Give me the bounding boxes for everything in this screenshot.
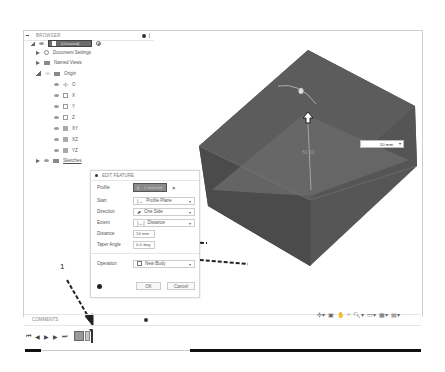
eye-icon[interactable]: [54, 127, 59, 130]
timeline-marker[interactable]: [91, 330, 93, 343]
pan-icon[interactable]: ✋: [337, 311, 344, 318]
folder-icon: [44, 61, 50, 65]
distance-icon: |↔|: [137, 220, 145, 226]
grid-settings-icon[interactable]: ▦▾: [379, 311, 388, 318]
profile-selection[interactable]: ⇧ 1 selected: [133, 183, 167, 192]
tree-root[interactable]: (Unsaved): [30, 39, 101, 48]
eye-icon[interactable]: [39, 42, 44, 45]
tree-item-label: X: [72, 93, 75, 98]
expand-icon[interactable]: [36, 71, 41, 76]
chevron-down-icon: ▾: [189, 262, 191, 267]
play-icon[interactable]: ▶: [44, 333, 49, 340]
timeline-extrude-feature[interactable]: [85, 331, 90, 341]
go-to-end-icon[interactable]: ⏭: [62, 333, 67, 340]
chevron-down-icon: ▾: [189, 210, 191, 215]
start-select[interactable]: |→ Profile Plane ▾: [133, 197, 195, 205]
new-body-icon: [137, 261, 142, 266]
ok-button[interactable]: OK: [136, 282, 161, 290]
tree-item-z-axis[interactable]: Z: [54, 113, 75, 122]
edit-feature-dialog: EDIT FEATURE Profile ⇧ 1 selected × Star…: [90, 170, 200, 298]
viewports-icon[interactable]: ▤▾: [391, 311, 400, 318]
step-forward-icon[interactable]: ▶: [53, 333, 58, 340]
timeline-sketch-feature[interactable]: [74, 331, 84, 341]
axis-icon: [63, 93, 68, 98]
eye-icon[interactable]: [54, 83, 59, 86]
gear-icon: [44, 50, 49, 55]
fit-icon[interactable]: 🔍︎▾: [353, 311, 364, 318]
extent-select[interactable]: |↔| Distance ▾: [133, 219, 195, 227]
taper-angle-input[interactable]: 0.0 deg: [133, 241, 155, 249]
root-component[interactable]: (Unsaved): [48, 40, 92, 47]
tree-item-y-axis[interactable]: Y: [54, 102, 75, 111]
eye-icon[interactable]: [44, 159, 49, 162]
start-label: Start: [91, 198, 133, 203]
timeline: ⏮ ◀ ▶ ▶ ⏭: [24, 325, 421, 346]
orbit-icon[interactable]: ✣▾: [317, 311, 325, 318]
tree-item-label: Y: [72, 104, 75, 109]
tree-item-origin-point[interactable]: ✣ O: [54, 80, 76, 89]
tree-item-origin[interactable]: Origin: [36, 69, 76, 78]
dialog-header[interactable]: EDIT FEATURE: [91, 171, 199, 181]
activate-radio-icon[interactable]: [96, 41, 101, 46]
divider: [91, 253, 199, 254]
tree-item-label: Document Settings: [53, 50, 91, 55]
distance-manipulator-input[interactable]: 10 mm ▾: [360, 140, 404, 148]
tree-item-sketches[interactable]: Sketches: [36, 156, 82, 165]
tree-item-yz-plane[interactable]: YZ: [54, 146, 78, 155]
chevron-down-icon[interactable]: ▾: [399, 141, 401, 146]
direction-select[interactable]: ⬈ One Side ▾: [133, 208, 195, 216]
panel-menu-icon[interactable]: [149, 33, 150, 38]
tree-item-label: YZ: [72, 148, 78, 153]
clear-selection-icon[interactable]: ×: [172, 185, 176, 191]
folder-icon: [53, 159, 59, 163]
browser-title: BROWSER: [36, 33, 61, 38]
distance-input[interactable]: 10 mm: [133, 230, 155, 238]
axis-icon: [63, 104, 68, 109]
extent-label: Extent: [91, 220, 133, 225]
eye-icon[interactable]: [54, 116, 59, 119]
scrollbar-thumb[interactable]: [25, 349, 41, 352]
profile-row: Profile ⇧ 1 selected ×: [91, 182, 199, 193]
tree-item-label: O: [72, 82, 76, 87]
chevron-down-icon: ▾: [189, 199, 191, 204]
eye-icon[interactable]: [54, 105, 59, 108]
taper-angle-label: Taper Angle: [91, 242, 133, 247]
zoom-icon[interactable]: ⌕: [347, 311, 350, 318]
scrollbar-region[interactable]: [190, 349, 421, 352]
eye-icon[interactable]: [54, 149, 59, 152]
scrollbar-track[interactable]: [41, 350, 190, 351]
pin-icon[interactable]: [142, 34, 146, 38]
sketch-dimension-label: 50.00: [302, 149, 315, 155]
tree-item-label: Named Views: [54, 60, 82, 65]
profile-label: Profile: [91, 185, 133, 190]
eye-icon[interactable]: [54, 138, 59, 141]
tree-item-xz-plane[interactable]: XZ: [54, 135, 78, 144]
cancel-button[interactable]: Cancel: [167, 282, 195, 290]
tree-item-named-views[interactable]: Named Views: [36, 58, 82, 67]
tree-item-label: Sketches: [63, 158, 82, 163]
look-at-icon[interactable]: ▣: [328, 311, 334, 318]
step-back-icon[interactable]: ◀: [35, 333, 40, 340]
folder-icon: [54, 72, 60, 76]
go-to-start-icon[interactable]: ⏮: [26, 333, 31, 340]
taper-handle: [299, 88, 304, 94]
operation-row: Operation New Body ▾: [91, 258, 199, 269]
tree-item-xy-plane[interactable]: XY: [54, 124, 78, 133]
tree-item-x-axis[interactable]: X: [54, 91, 75, 100]
direction-row: Direction ⬈ One Side ▾: [91, 206, 199, 217]
taper-angle-row: Taper Angle 0.0 deg: [91, 239, 199, 250]
pin-icon[interactable]: [144, 318, 148, 322]
expand-icon[interactable]: [36, 61, 40, 65]
eye-icon[interactable]: [45, 72, 50, 75]
eye-icon[interactable]: [54, 94, 59, 97]
display-settings-icon[interactable]: ▭▾: [367, 311, 376, 318]
info-icon[interactable]: [97, 284, 102, 289]
collapse-icon[interactable]: [26, 35, 29, 36]
dialog-collapse-icon[interactable]: [95, 174, 98, 177]
expand-icon[interactable]: [30, 41, 35, 46]
expand-icon[interactable]: [36, 51, 40, 55]
operation-select[interactable]: New Body ▾: [133, 260, 195, 268]
tree-item-document-settings[interactable]: Document Settings: [36, 48, 91, 57]
expand-icon[interactable]: [36, 159, 40, 163]
tree-item-label: Origin: [64, 71, 76, 76]
